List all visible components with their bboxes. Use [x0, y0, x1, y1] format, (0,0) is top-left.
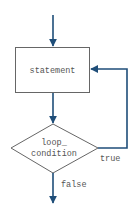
true-label: true [100, 154, 120, 164]
statement-node: statement [16, 48, 90, 93]
do-while-flowchart: statement loop_ condition true false [0, 0, 138, 214]
condition-node: loop_ condition [11, 124, 98, 173]
statement-label: statement [30, 66, 76, 76]
true-loop-arrow [91, 69, 127, 148]
condition-label-line1: loop_ [41, 138, 67, 148]
condition-label-line2: condition [31, 149, 77, 159]
false-label: false [61, 180, 87, 190]
